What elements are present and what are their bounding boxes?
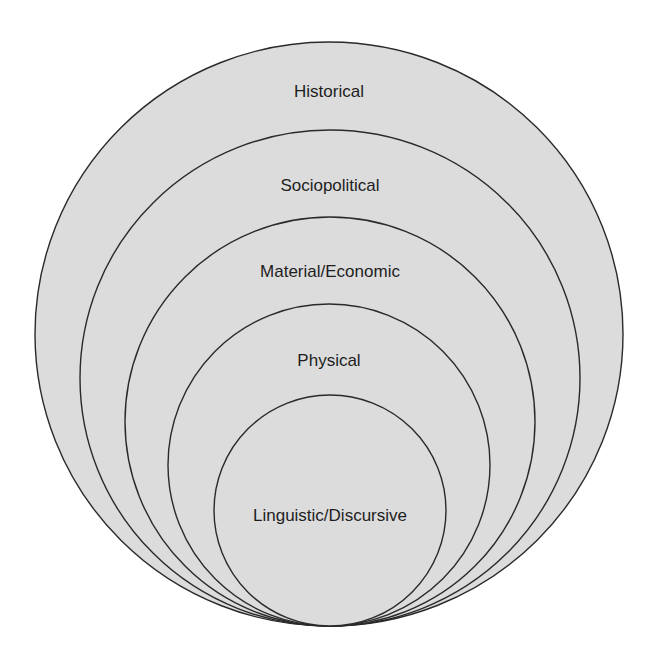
label-linguistic-discursive: Linguistic/Discursive: [253, 506, 407, 525]
label-historical: Historical: [294, 82, 364, 101]
label-physical: Physical: [297, 351, 360, 370]
label-material-economic: Material/Economic: [260, 262, 400, 281]
nested-context-diagram: HistoricalSociopoliticalMaterial/Economi…: [0, 0, 657, 656]
label-sociopolitical: Sociopolitical: [280, 176, 379, 195]
